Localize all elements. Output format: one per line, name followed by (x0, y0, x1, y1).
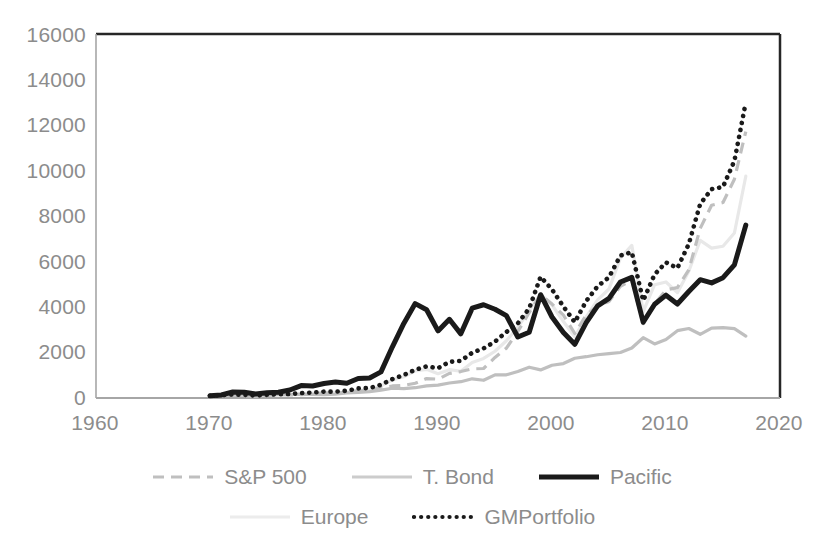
legend-item-europe[interactable]: Europe (229, 506, 369, 527)
chart-legend: S&P 500 T. Bond Pacific Europe (0, 458, 824, 552)
legend-swatch-solid-light-icon (351, 468, 413, 486)
legend-item-sp500[interactable]: S&P 500 (152, 466, 307, 487)
plot-frame (96, 34, 780, 398)
series-line-europe (210, 176, 746, 396)
y-tick-label: 16000 (0, 24, 86, 45)
x-tick-label: 1970 (164, 412, 254, 433)
series-line-gmportfolio (210, 102, 746, 395)
x-tick-label: 1980 (278, 412, 368, 433)
y-tick-label: 4000 (0, 296, 86, 317)
y-tick-label: 6000 (0, 251, 86, 272)
x-tick-label: 2020 (734, 412, 824, 433)
y-tick-label: 10000 (0, 160, 86, 181)
legend-item-pacific[interactable]: Pacific (538, 466, 672, 487)
legend-label: Europe (301, 506, 369, 527)
y-tick-label: 14000 (0, 69, 86, 90)
legend-swatch-dotted-icon (412, 508, 474, 526)
legend-row: Europe GMPortfolio (0, 506, 824, 527)
legend-label: S&P 500 (224, 466, 307, 487)
y-tick-label: 2000 (0, 341, 86, 362)
x-tick-label: 2010 (620, 412, 710, 433)
x-tick-label: 1960 (50, 412, 140, 433)
legend-item-tbond[interactable]: T. Bond (351, 466, 494, 487)
legend-swatch-solid-bold-icon (538, 468, 600, 486)
x-tick-label: 2000 (506, 412, 596, 433)
legend-item-gmportfolio[interactable]: GMPortfolio (412, 506, 595, 527)
legend-swatch-solid-faint-icon (229, 508, 291, 526)
legend-label: T. Bond (423, 466, 494, 487)
legend-row: S&P 500 T. Bond Pacific (0, 466, 824, 487)
chart-series-group (210, 102, 746, 396)
y-tick-label: 12000 (0, 114, 86, 135)
y-tick-label: 8000 (0, 205, 86, 226)
x-tick-label: 1990 (392, 412, 482, 433)
legend-label: GMPortfolio (484, 506, 595, 527)
y-tick-label: 0 (0, 387, 86, 408)
legend-swatch-dashed-icon (152, 468, 214, 486)
chart-container: 16000 14000 12000 10000 8000 6000 4000 2… (0, 0, 824, 552)
legend-label: Pacific (610, 466, 672, 487)
